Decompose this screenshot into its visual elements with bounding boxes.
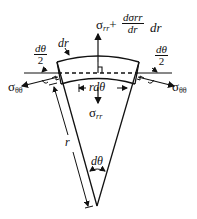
- sigma-tt-left-arrow: [22, 77, 58, 86]
- dr-marker: [98, 62, 102, 73]
- rdtheta-label: rdθ: [89, 81, 105, 93]
- half-dtheta-right: dθ 2: [155, 44, 168, 67]
- sigma-tt-right-sub: θθ: [179, 86, 187, 95]
- sigma-rr-top-base: σ: [96, 17, 103, 32]
- sigma-rr-bottom-base: σ: [89, 105, 96, 120]
- dr-label: dr: [58, 37, 69, 49]
- plus-sign: +: [109, 17, 116, 32]
- sigma-rr-top-label: σrr+: [96, 18, 117, 33]
- r-dimension-top-tick: [49, 83, 57, 85]
- half-dtheta-left: dθ 2: [34, 43, 47, 66]
- sigma-rr-bottom-sub: rr: [96, 112, 102, 121]
- dsigma-denominator: dr: [122, 24, 144, 35]
- sigma-tt-left-label: σθθ: [8, 80, 23, 95]
- dsigma-dr-fraction: dσrr dr: [122, 12, 144, 35]
- sigma-rr-bottom-label: σrr: [89, 106, 102, 121]
- sigma-tt-right-base: σ: [172, 79, 179, 94]
- half-dtheta-right-den: 2: [155, 56, 168, 67]
- sigma-tt-left-base: σ: [8, 79, 15, 94]
- half-dtheta-left-den: 2: [34, 55, 47, 66]
- r-label: r: [65, 136, 70, 148]
- r-dimension-bottom-tick: [85, 206, 93, 208]
- sigma-tt-right-label: σθθ: [172, 80, 187, 95]
- r-dimension-lower: [73, 152, 88, 206]
- right-step-mark: [137, 76, 144, 80]
- right-half-angle-arrow: [152, 68, 157, 72]
- sigma-tt-left-sub: θθ: [15, 86, 23, 95]
- apex-dtheta-label: dθ: [91, 155, 103, 167]
- left-step-mark: [52, 76, 59, 80]
- left-half-angle-arrow: [42, 68, 46, 72]
- sigma-tt-right-arrow: [138, 77, 174, 86]
- dr-multiplier-label: dr: [150, 21, 162, 34]
